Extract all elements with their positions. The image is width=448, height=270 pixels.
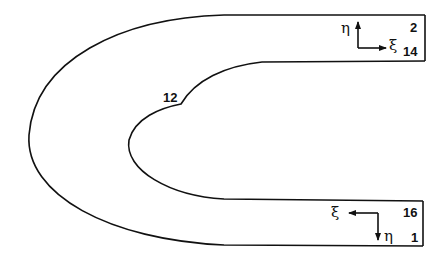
inner-boundary bbox=[129, 61, 425, 201]
bottom-xi-label: ξ bbox=[331, 205, 339, 220]
node-label-14: 14 bbox=[403, 45, 417, 58]
top-eta-label: η bbox=[341, 21, 350, 36]
node-label-16: 16 bbox=[403, 206, 417, 219]
node-label-12: 12 bbox=[163, 91, 177, 104]
node-label-2: 2 bbox=[410, 21, 417, 34]
bottom-eta-label: η bbox=[384, 229, 393, 244]
u-shaped-domain-diagram bbox=[0, 0, 448, 270]
node-label-1: 1 bbox=[411, 231, 418, 244]
bottom-axes-icon bbox=[349, 213, 378, 240]
outer-boundary bbox=[29, 15, 425, 246]
top-xi-label: ξ bbox=[389, 38, 397, 53]
top-axes-icon bbox=[358, 22, 386, 48]
